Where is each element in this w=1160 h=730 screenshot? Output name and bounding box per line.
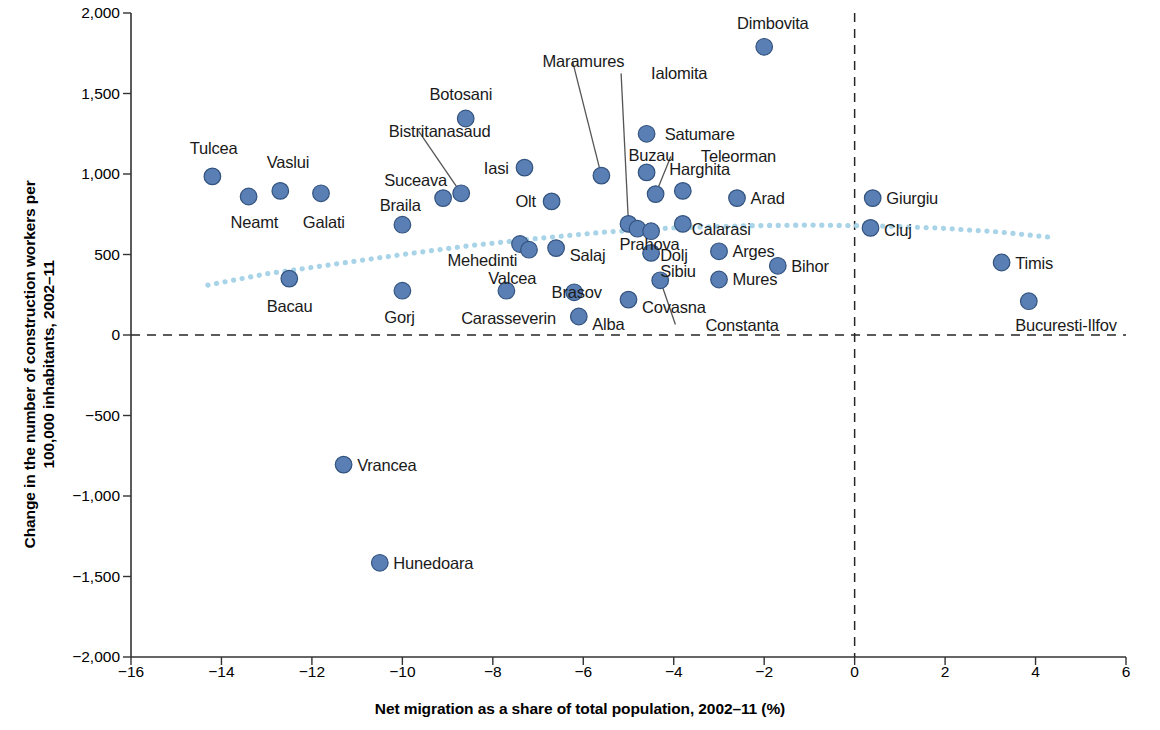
y-tick-label: 0: [46, 326, 120, 344]
data-point-label: Brasov: [552, 284, 602, 301]
y-tick-label: −500: [46, 407, 120, 425]
data-point-label: Olt: [515, 192, 535, 209]
data-point-label: Valcea: [488, 270, 536, 287]
data-point: [512, 236, 529, 253]
data-point-label: Arges: [733, 243, 775, 260]
data-point-label: Gorj: [384, 309, 414, 326]
data-point: [548, 240, 565, 257]
data-point: [711, 243, 728, 260]
data-point-label: Vaslui: [267, 154, 310, 171]
data-point: [864, 190, 881, 207]
y-tick-label: −2,000: [46, 648, 120, 666]
data-point-label: Suceava: [384, 172, 447, 189]
data-point-label: Bihor: [791, 258, 829, 275]
data-point-label: Bacau: [267, 298, 313, 315]
data-point-label: Arad: [751, 190, 785, 207]
x-axis-title: Net migration as a share of total popula…: [0, 700, 1160, 718]
data-point: [272, 183, 289, 200]
y-axis-tick-labels: −2,000−1,500−1,000−50005001,0001,5002,00…: [46, 0, 120, 730]
data-point-label: Timis: [1015, 254, 1053, 271]
data-point: [453, 185, 470, 202]
data-point-label: Braila: [380, 197, 421, 214]
data-point: [372, 555, 389, 572]
data-point-label: Sibiu: [660, 263, 696, 280]
x-tick-label: −8: [484, 663, 502, 681]
data-point: [647, 186, 664, 203]
data-point: [394, 216, 411, 233]
data-point-label: Constanta: [705, 316, 778, 333]
data-point: [335, 456, 352, 473]
data-point-label: Satumare: [665, 126, 735, 143]
x-tick-label: 2: [941, 663, 950, 681]
data-point: [729, 190, 746, 207]
data-point: [993, 254, 1010, 271]
data-point-label: Buzau: [629, 146, 675, 163]
x-tick-label: 0: [850, 663, 859, 681]
data-point-label: Calarasi: [692, 220, 751, 237]
data-point-label: Covasna: [642, 299, 706, 316]
x-tick-label: −14: [208, 663, 234, 681]
data-point: [435, 190, 452, 207]
data-point: [593, 167, 610, 184]
data-point: [521, 241, 538, 258]
y-tick-label: 2,000: [46, 4, 120, 22]
data-point-label: Iasi: [484, 159, 509, 176]
data-point: [638, 126, 655, 143]
x-tick-label: −10: [389, 663, 415, 681]
data-point: [711, 271, 728, 288]
x-tick-label: −6: [574, 663, 592, 681]
data-point: [1021, 293, 1038, 310]
data-point-label: Bistritanasaud: [389, 123, 491, 140]
data-point: [638, 164, 655, 181]
data-point-label: Galati: [303, 214, 345, 231]
data-point-label: Hunedoara: [393, 555, 473, 572]
data-point: [516, 159, 533, 176]
data-point-label: Neamt: [231, 214, 279, 231]
data-point-label: Giurgiu: [886, 190, 938, 207]
x-tick-label: −4: [665, 663, 683, 681]
x-tick-label: −12: [299, 663, 325, 681]
data-point-label: Salaj: [570, 246, 606, 263]
data-point: [204, 168, 221, 185]
data-point: [394, 282, 411, 299]
data-point-label: Botosani: [430, 86, 493, 103]
data-point-label: Bucuresti-Ilfov: [1015, 317, 1117, 334]
data-point: [620, 291, 637, 308]
reference-lines: [131, 13, 1126, 657]
data-point-label: Maramures: [543, 53, 625, 70]
scatter-chart-figure: Change in the number of construction wor…: [0, 0, 1160, 730]
data-point-label: Mehedinti: [448, 252, 518, 269]
y-tick-label: 1,500: [46, 85, 120, 103]
data-point-label: Vrancea: [357, 456, 416, 473]
data-point: [281, 270, 298, 287]
data-point: [862, 220, 879, 237]
plot-area: [0, 0, 1160, 730]
data-point-label: Alba: [592, 315, 624, 332]
data-point-label: Dolj: [660, 246, 688, 263]
data-points: [204, 39, 1037, 572]
data-point-label: Cluj: [884, 221, 912, 238]
y-tick-label: −1,000: [46, 487, 120, 505]
x-tick-label: 4: [1031, 663, 1040, 681]
axis-lines: [123, 13, 1126, 665]
y-tick-label: −1,500: [46, 568, 120, 586]
data-point: [675, 216, 692, 233]
y-tick-label: 500: [46, 246, 120, 264]
y-tick-label: 1,000: [46, 165, 120, 183]
data-point: [620, 216, 637, 233]
x-tick-label: −2: [755, 663, 773, 681]
data-point: [756, 39, 773, 56]
data-point-label: Ialomita: [651, 65, 707, 82]
data-point-label: Mures: [733, 271, 778, 288]
data-point-label: Carasseverin: [461, 310, 556, 327]
y-axis-title-line1: Change in the number of construction wor…: [21, 180, 38, 548]
data-point: [313, 185, 330, 202]
data-point: [543, 193, 560, 210]
data-point-label: Tulcea: [190, 140, 238, 157]
data-point: [675, 183, 692, 200]
x-tick-label: 6: [1122, 663, 1131, 681]
data-point: [571, 308, 588, 325]
data-point: [240, 188, 257, 205]
x-tick-label: −16: [118, 663, 144, 681]
data-point-label: Harghita: [669, 161, 730, 178]
